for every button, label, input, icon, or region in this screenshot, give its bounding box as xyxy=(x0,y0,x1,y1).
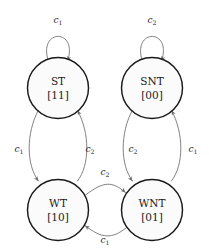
edge-snt-self-loop-label: c2 xyxy=(148,15,157,26)
node-st-name: ST xyxy=(51,75,65,87)
edge-st-to-wt: c1 xyxy=(15,110,39,181)
node-wnt-name: WNT xyxy=(139,197,166,209)
edge-st-self-loop: c1 xyxy=(46,15,69,62)
edge-st-to-wt-label: c1 xyxy=(15,144,24,155)
node-snt-encoding: [00] xyxy=(141,89,163,101)
edge-wt-to-st: c2 xyxy=(78,111,95,182)
edge-wt-to-wnt-label: c2 xyxy=(101,167,110,178)
state-diagram: c1 c2 c1 c2 c2 xyxy=(0,0,209,249)
node-st-encoding: [11] xyxy=(47,89,69,101)
node-snt-circle[interactable] xyxy=(122,58,183,119)
edge-wt-to-st-label: c2 xyxy=(86,144,95,155)
node-wnt-circle[interactable] xyxy=(122,180,183,241)
fsm-canvas: c1 c2 c1 c2 c2 xyxy=(0,0,209,249)
node-snt-name: SNT xyxy=(140,75,163,87)
node-wt-name: WT xyxy=(49,197,67,209)
edge-snt-to-wnt: c2 xyxy=(123,110,137,181)
edge-wnt-to-snt-label: c1 xyxy=(189,144,198,155)
node-wt[interactable]: WT [10] xyxy=(28,180,89,241)
edge-wnt-to-wt: c1 xyxy=(85,226,126,246)
node-wnt-encoding: [01] xyxy=(141,211,163,223)
edge-snt-self-loop: c2 xyxy=(140,15,163,62)
node-st[interactable]: ST [11] xyxy=(28,58,89,119)
edge-st-self-loop-label: c1 xyxy=(54,15,63,26)
edge-wnt-to-snt-path xyxy=(172,111,181,182)
edge-wt-to-wnt: c2 xyxy=(86,167,126,196)
node-st-circle[interactable] xyxy=(28,58,89,119)
edge-wt-to-wnt-path xyxy=(86,184,126,195)
node-wt-circle[interactable] xyxy=(28,180,89,241)
node-wnt[interactable]: WNT [01] xyxy=(122,180,183,241)
node-snt[interactable]: SNT [00] xyxy=(122,58,183,119)
edge-st-to-wt-path xyxy=(29,110,38,181)
node-wt-encoding: [10] xyxy=(47,211,69,223)
edge-wnt-to-snt: c1 xyxy=(172,111,198,182)
edge-snt-to-wnt-label: c2 xyxy=(129,144,138,155)
